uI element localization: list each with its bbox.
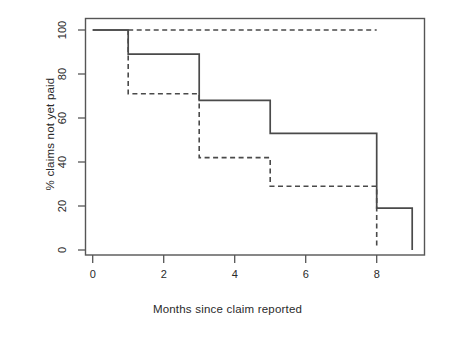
x-axis-title: Months since claim reported [0,303,455,315]
x-tick-label-2: 2 [150,268,178,280]
y-tick-label-0: 0 [56,236,68,264]
y-tick-label-100: 100 [56,16,68,44]
dashed-series-steps [128,30,377,246]
y-tick-label-60: 60 [56,104,68,132]
y-tick-label-20: 20 [56,192,68,220]
y-axis-ticks [78,30,85,250]
x-tick-label-8: 8 [363,268,391,280]
x-axis-ticks [93,255,377,263]
plot-canvas [0,0,455,344]
x-tick-label-0: 0 [79,268,107,280]
x-tick-label-6: 6 [292,268,320,280]
y-tick-label-80: 80 [56,60,68,88]
x-tick-label-4: 4 [221,268,249,280]
chart-screenshot: 100 80 60 40 20 0 0 2 4 6 8 Months since… [0,0,455,344]
y-tick-label-40: 40 [56,148,68,176]
y-axis-title: % claims not yet paid [44,44,56,224]
step-plot: 100 80 60 40 20 0 0 2 4 6 8 Months since… [0,0,455,344]
solid-series-steps [93,30,413,250]
